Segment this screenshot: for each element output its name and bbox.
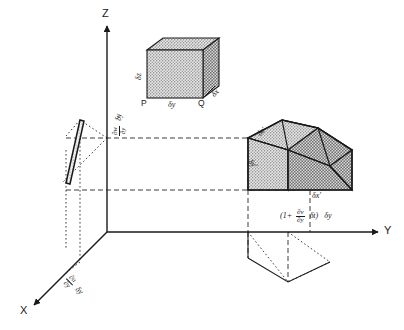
- cube-edge-dy: δy: [168, 101, 175, 109]
- axis-label-z: Z: [102, 8, 109, 19]
- cube-vertex-p: P: [141, 99, 147, 108]
- figure-canvas: Z Y X P Q δy δz δx δz′ δy′ δx′ ∂w ∂y δy …: [0, 0, 404, 330]
- annotation-w-shear: ∂w ∂y δy: [110, 114, 127, 136]
- left-sliver-shape: [66, 120, 84, 184]
- cube-vertex-q: Q: [198, 99, 205, 108]
- w-shear-fraction: ∂w ∂y: [112, 126, 127, 136]
- axis-label-x: X: [20, 305, 27, 316]
- axis-label-y: Y: [384, 225, 391, 236]
- v-stretch-fraction: ∂v ∂y: [296, 209, 305, 224]
- lower-projection-outline: [248, 232, 330, 282]
- deformed-edge-dx: δx′: [312, 192, 321, 200]
- cube-edge-dz: δz: [135, 73, 143, 80]
- annotation-v-stretch: (1+ ∂v ∂y δt) δy: [280, 207, 332, 224]
- deformation-diagram: [0, 0, 404, 330]
- undeformed-cube: [147, 38, 219, 98]
